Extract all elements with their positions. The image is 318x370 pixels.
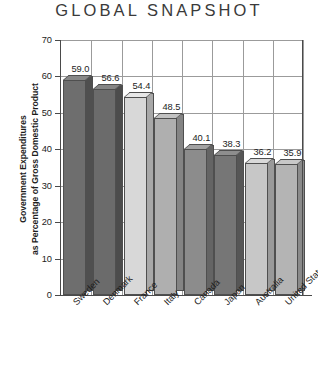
bar-front-face	[93, 89, 116, 295]
y-axis-tick-label: 40	[42, 144, 52, 154]
x-axis-baseline	[60, 295, 312, 296]
y-axis-tick	[55, 222, 61, 223]
bar-front-face	[245, 163, 268, 295]
chart-title: GLOBAL SNAPSHOT	[0, 1, 318, 20]
bar-canada	[184, 149, 207, 295]
bar-side-face	[207, 145, 214, 291]
y-axis-tick-label: 60	[42, 71, 52, 81]
bar-value-label: 59.0	[71, 64, 89, 74]
y-axis-tick-label: 20	[42, 217, 52, 227]
y-axis-tick	[55, 259, 61, 260]
y-axis-tick-label: 30	[42, 181, 52, 191]
bar-sweden	[63, 80, 86, 295]
y-axis-title: Government Expenditures as Percentage of…	[16, 40, 42, 298]
y-axis-tick-label: 10	[42, 254, 52, 264]
plot-right-border	[302, 40, 303, 296]
global-snapshot-chart: GLOBAL SNAPSHOT Government Expenditures …	[0, 0, 318, 370]
bar-side-face	[268, 159, 275, 291]
bar-denmark	[93, 89, 116, 295]
bar-front-face	[63, 80, 86, 295]
bar-value-label: 36.2	[253, 147, 271, 157]
bar-front-face	[184, 149, 207, 295]
bar-side-face	[116, 85, 123, 291]
y-axis-title-line-2: as Percentage of Gross Domestic Product	[29, 83, 41, 255]
plot-area: 01020304050607059.056.654.448.540.138.33…	[60, 40, 303, 295]
bar-value-label: 40.1	[192, 133, 210, 143]
y-axis-tick-label: 0	[47, 290, 52, 300]
y-axis-tick	[55, 76, 61, 77]
bar-australia	[245, 163, 268, 295]
bar-side-face	[86, 76, 93, 291]
bar-value-label: 35.9	[283, 148, 301, 158]
y-axis-tick	[55, 186, 61, 187]
bar-front-face	[124, 97, 147, 295]
bar-front-face	[154, 118, 177, 295]
bar-italy	[154, 118, 177, 295]
y-axis-tick	[55, 113, 61, 114]
bar-japan	[214, 155, 237, 295]
bar-value-label: 54.4	[132, 81, 150, 91]
y-axis-tick	[55, 40, 61, 41]
y-axis-tick	[55, 149, 61, 150]
bar-value-label: 38.3	[222, 139, 240, 149]
y-axis-title-line-1: Government Expenditures	[18, 83, 30, 255]
bar-value-label: 48.5	[162, 102, 180, 112]
bar-side-face	[177, 114, 184, 291]
y-axis-tick-label: 50	[42, 108, 52, 118]
bar-side-face	[147, 93, 154, 291]
bar-value-label: 56.6	[101, 73, 119, 83]
bar-france	[124, 97, 147, 295]
bar-side-face	[237, 151, 244, 291]
y-axis-tick-label: 70	[42, 35, 52, 45]
bar-front-face	[214, 155, 237, 295]
